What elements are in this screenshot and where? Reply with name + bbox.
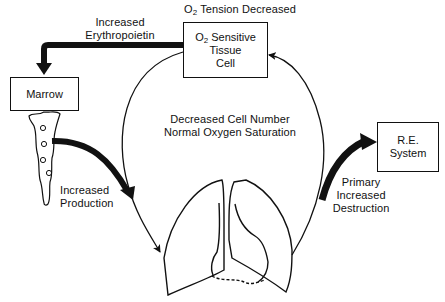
o2-cell-line1: O2 Sensitive xyxy=(195,31,256,44)
marrow-label: Marrow xyxy=(26,88,63,101)
tension-text: Tension Decreased xyxy=(197,3,296,15)
center-label: Decreased Cell Number Normal Oxygen Satu… xyxy=(150,113,310,139)
marrow-node: Marrow xyxy=(10,77,79,111)
o2-symbol: O xyxy=(184,3,193,15)
re-system-line1: R.E. xyxy=(397,134,418,147)
re-system-line2: System xyxy=(390,147,427,160)
destruction-line2: Increased xyxy=(326,189,396,202)
erythropoietin-line1: Increased xyxy=(70,16,170,29)
erythropoietin-label: Increased Erythropoietin xyxy=(70,16,170,42)
erythropoietin-line2: Erythropoietin xyxy=(70,29,170,42)
re-system-node: R.E. System xyxy=(377,122,439,172)
destruction-label: Primary Increased Destruction xyxy=(326,176,396,215)
center-line2: Normal Oxygen Saturation xyxy=(150,126,310,139)
production-line2: Production xyxy=(60,197,120,210)
production-label: Increased Production xyxy=(60,184,120,210)
o2-tension-decreased-label: O2 Tension Decreased xyxy=(165,3,315,16)
o2-cell-line3: Cell xyxy=(216,57,235,70)
bone-icon xyxy=(29,112,60,205)
center-line1: Decreased Cell Number xyxy=(150,113,310,126)
erythropoietin-arrow xyxy=(36,45,183,75)
lungs-icon xyxy=(164,180,292,295)
o2-cell-line2: Tissue xyxy=(210,44,242,57)
circulation-loop xyxy=(122,52,324,255)
destruction-line3: Destruction xyxy=(326,202,396,215)
destruction-line1: Primary xyxy=(326,176,396,189)
o2-sensitive-tissue-cell-node: O2 Sensitive Tissue Cell xyxy=(183,22,268,78)
production-line1: Increased xyxy=(60,184,120,197)
